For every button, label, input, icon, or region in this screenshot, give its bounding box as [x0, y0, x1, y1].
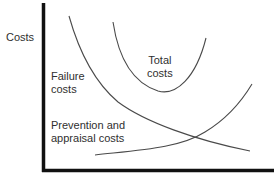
prevention-appraisal-costs-label: Prevention and appraisal costs	[51, 119, 125, 145]
total-costs-label-line2: costs	[147, 67, 173, 80]
failure-costs-label-line1: Failure	[51, 70, 85, 83]
failure-costs-label-line2: costs	[51, 83, 85, 96]
cost-of-quality-chart	[0, 0, 274, 178]
prevention-costs-label-line1: Prevention and	[51, 119, 125, 132]
total-costs-label: Total costs	[147, 54, 173, 80]
y-axis-label: Costs	[6, 31, 34, 44]
failure-costs-label: Failure costs	[51, 70, 85, 96]
prevention-costs-label-line2: appraisal costs	[51, 132, 125, 145]
y-axis-label-text: Costs	[6, 31, 34, 43]
total-costs-label-line1: Total	[147, 54, 173, 67]
